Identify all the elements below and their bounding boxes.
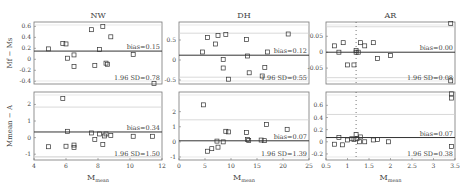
x-tick-label: 0 — [177, 162, 181, 169]
bias-label: bias=0.00 — [420, 44, 453, 52]
sd-label: 1.96 SD=1.50 — [114, 150, 160, 158]
bias-label: bias=0.07 — [274, 133, 307, 141]
panel-title: AR — [384, 11, 398, 20]
y-axis-label: Mmean − A — [6, 104, 14, 147]
y-tick-label: -0.4 — [19, 77, 31, 84]
x-tick-label: 20 — [279, 162, 287, 169]
y-tick-label: 0 — [319, 48, 323, 55]
y-tick-label: 2 — [172, 108, 176, 115]
panel-ar-bottom: -0.200.20.40.60.511.522.533.5bias=0.071.… — [311, 92, 460, 183]
sd-label: 1.96 SD=0.55 — [261, 74, 307, 82]
y-tick-label: 0.6 — [21, 22, 31, 29]
x-tick-label: 3.5 — [450, 162, 460, 169]
x-tick-label: 12 — [158, 162, 166, 169]
x-tick-label: 4 — [32, 162, 36, 169]
y-tick-label: 0.2 — [313, 126, 323, 133]
y-tick-label: 1 — [172, 123, 176, 130]
panel-title: DH — [237, 11, 250, 20]
y-tick-label: 0.6 — [313, 101, 323, 108]
x-tick-label: 2 — [389, 162, 393, 169]
x-tick-label: 1 — [346, 162, 350, 169]
bias-label: bias=0.12 — [274, 47, 307, 55]
bias-label: bias=0.15 — [127, 43, 160, 51]
sd-label: 1.96 SD=0.78 — [114, 74, 160, 82]
x-tick-label: 25 — [305, 162, 313, 169]
x-tick-label: 1.5 — [364, 162, 374, 169]
y-tick-label: -1 — [170, 153, 176, 160]
sd-label: 1.96 SD=0.08 — [407, 74, 453, 82]
x-tick-label: 8 — [96, 162, 100, 169]
y-tick-label: 0 — [27, 134, 31, 141]
x-tick-label: 10 — [227, 162, 235, 169]
bias-label: bias=0.07 — [420, 130, 453, 138]
x-axis-label: Mmean — [233, 173, 256, 183]
y-tick-label: 1 — [27, 117, 31, 124]
sd-label: 1.96 SD=0.38 — [407, 150, 453, 158]
y-tick-label: 0 — [172, 138, 176, 145]
bland-altman-figure: -0.4-0.200.20.40.6bias=0.151.96 SD=0.78N… — [0, 0, 465, 185]
panel-nw-top: -0.4-0.200.20.40.6bias=0.151.96 SD=0.78N… — [6, 11, 162, 85]
y-tick-label: 0.4 — [313, 114, 323, 121]
x-tick-label: 3 — [432, 162, 436, 169]
x-tick-label: 0.5 — [321, 162, 331, 169]
y-tick-label: 0.5 — [166, 36, 176, 43]
y-tick-label: -0.5 — [164, 76, 176, 83]
panel-nw-bottom: -10124681012bias=0.341.96 SD=1.50MmeanMm… — [6, 92, 166, 183]
x-tick-label: 2.5 — [407, 162, 417, 169]
panel-ar-top: -0.0500.05bias=0.001.96 SD=0.08AR — [308, 11, 455, 84]
y-tick-label: 0.4 — [21, 33, 31, 40]
sd-label: 1.96 SD=1.39 — [261, 150, 307, 158]
y-axis-label: Mf − Ms — [6, 37, 14, 68]
x-axis-label: Mmean — [379, 173, 402, 183]
x-tick-label: 10 — [126, 162, 134, 169]
panel-title: NW — [90, 11, 106, 20]
y-tick-label: -0.2 — [311, 150, 323, 157]
y-tick-label: -0.2 — [19, 66, 31, 73]
y-tick-label: 0 — [27, 55, 31, 62]
y-tick-label: 0 — [172, 56, 176, 63]
bias-label: bias=0.34 — [127, 124, 160, 132]
y-tick-label: 2 — [27, 100, 31, 107]
chart-canvas: -0.4-0.200.20.40.6bias=0.151.96 SD=0.78N… — [0, 0, 465, 185]
x-tick-label: 5 — [203, 162, 207, 169]
y-tick-label: 0.05 — [310, 32, 324, 39]
y-tick-label: 0 — [319, 138, 323, 145]
x-axis-label: Mmean — [87, 173, 110, 183]
panel-dh-bottom: -10120510152025bias=0.071.96 SD=1.39Mmea… — [170, 92, 313, 183]
y-tick-label: -1 — [25, 150, 31, 157]
y-tick-label: 0.2 — [21, 44, 31, 51]
y-tick-label: -0.05 — [308, 64, 324, 71]
x-tick-label: 15 — [253, 162, 261, 169]
panel-dh-top: -0.500.5bias=0.121.96 SD=0.55DH — [164, 11, 309, 84]
x-tick-label: 6 — [64, 162, 68, 169]
